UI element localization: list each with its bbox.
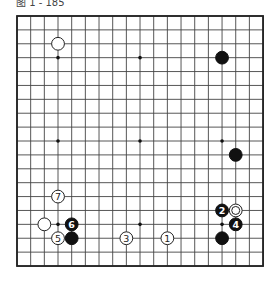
star-point	[220, 139, 224, 143]
go-board: 7264531	[0, 0, 278, 283]
white-stone-3: 3	[120, 232, 133, 245]
move-number: 2	[219, 205, 226, 216]
move-number: 7	[55, 191, 61, 202]
move-number: 4	[232, 219, 239, 230]
white-stone-5: 5	[52, 232, 65, 245]
star-point	[56, 223, 60, 227]
white-stone	[52, 37, 65, 50]
move-number: 5	[55, 233, 61, 244]
white-stone	[229, 204, 242, 217]
black-stone-6: 6	[65, 218, 78, 231]
move-number: 3	[123, 233, 129, 244]
white-stone-1: 1	[161, 232, 174, 245]
black-stone-2: 2	[216, 204, 229, 217]
black-stone	[216, 51, 229, 64]
black-stone-4: 4	[229, 218, 242, 231]
black-stone	[216, 232, 229, 245]
star-point	[56, 139, 60, 143]
move-number: 1	[164, 233, 170, 244]
star-point	[56, 56, 60, 60]
move-number: 6	[68, 219, 75, 230]
white-stone	[38, 218, 51, 231]
star-point	[138, 223, 142, 227]
star-point	[138, 139, 142, 143]
white-stone-7: 7	[52, 190, 65, 203]
black-stone	[229, 149, 242, 162]
star-point	[220, 223, 224, 227]
black-stone	[65, 232, 78, 245]
star-point	[138, 56, 142, 60]
